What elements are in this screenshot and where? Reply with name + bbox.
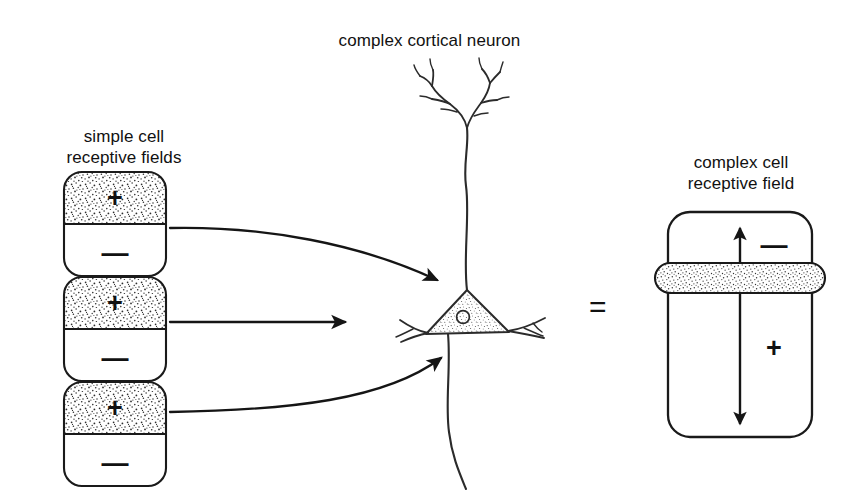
inhibitory-sign-3: — [64,450,166,477]
complex-cell-receptive-field [655,212,825,437]
equals-sign: = [589,292,607,322]
figure-canvas: complex cortical neuron simple cell rece… [0,0,859,500]
projection-arrow-top [170,228,437,280]
simple-cell-receptive-field-stack [64,172,166,486]
complex-field-plus-sign: + [752,335,796,362]
complex-field-minus-sign: — [752,232,796,259]
basal-dendrite-right [508,318,545,338]
projection-arrow-bottom [170,358,441,412]
stimulus-band [655,263,825,293]
basal-dendrite-left [396,320,428,342]
excitatory-sign-1: + [64,185,166,212]
dendritic-tree [414,58,509,128]
inhibitory-sign-2: — [64,345,166,372]
apical-dendrite [465,128,467,290]
axon [448,334,466,489]
nucleus [457,311,470,324]
cortical-neuron [396,58,545,489]
excitatory-sign-2: + [64,290,166,317]
excitatory-sign-3: + [64,395,166,422]
inhibitory-sign-1: — [64,240,166,267]
